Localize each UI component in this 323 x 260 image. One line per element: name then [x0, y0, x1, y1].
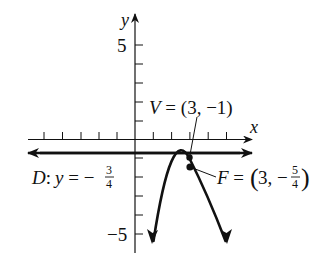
parabola-arrow-heads: [147, 229, 232, 244]
vertex-label-eq: = (3, −1): [161, 97, 233, 119]
y-tick-label-neg5: −5: [107, 224, 127, 245]
focus-frac-den: 4: [292, 177, 298, 191]
focus-label-eq: =: [229, 167, 244, 188]
x-axis-ticks-negative: [44, 132, 117, 140]
directrix-label: D:y = − 3 4: [31, 163, 114, 191]
svg-text:D:y = −: D:y = −: [31, 167, 94, 188]
y-axis: [135, 14, 143, 253]
focus-paren-close: ): [301, 163, 310, 192]
directrix-label-colon: :: [46, 167, 51, 188]
directrix-frac-den: 4: [106, 177, 112, 191]
focus-frac-num: 5: [292, 163, 298, 177]
focus-label: F = ( 3, − 5 4 ): [216, 163, 310, 192]
y-tick-label-5: 5: [117, 35, 127, 56]
x-axis: [28, 132, 252, 140]
vertex-label: V = (3, −1): [149, 97, 233, 119]
x-axis-label: x: [249, 117, 258, 137]
focus-x-value: 3, −: [258, 167, 288, 188]
directrix-label-prefix: D: [31, 167, 46, 188]
directrix-frac-num: 3: [106, 163, 112, 177]
vertex-leader-line: [190, 117, 198, 158]
directrix-label-var: y: [53, 167, 64, 188]
svg-text:F =: F =: [216, 167, 244, 188]
y-axis-label: y: [119, 10, 129, 30]
directrix-label-eq: = −: [63, 167, 94, 188]
parabola-diagram: y x 5 −5 V = (3, −1) F = ( 3, − 5 4 ) D:…: [0, 0, 323, 260]
focus-label-prefix: F: [216, 167, 229, 188]
focus-leader-line: [190, 167, 216, 177]
x-axis-ticks-positive: [153, 132, 226, 140]
